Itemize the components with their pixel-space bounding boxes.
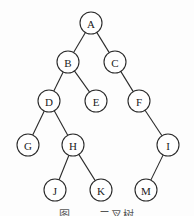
edge-a-c: [97, 32, 109, 52]
node-label: C: [111, 57, 118, 69]
edge-h-j: [59, 155, 69, 180]
tree-node-j: J: [44, 179, 66, 201]
edge-h-k: [79, 154, 95, 180]
tree-node-d: D: [38, 90, 60, 112]
tree-node-m: M: [135, 179, 157, 201]
node-label: E: [93, 96, 100, 108]
tree-node-c: C: [104, 51, 126, 73]
figure-caption: 图 ……二叉树: [0, 206, 194, 216]
edge-i-m: [151, 155, 163, 180]
edge-c-f: [121, 71, 133, 91]
edge-b-d: [54, 72, 63, 91]
node-label: I: [166, 140, 170, 152]
edge-f-i: [145, 110, 162, 136]
node-label: A: [87, 18, 95, 30]
tree-node-g: G: [17, 134, 39, 156]
node-label: D: [45, 96, 53, 108]
tree-node-b: B: [57, 51, 79, 73]
binary-tree-diagram: ABCDEFGHIJKM 图 ……二叉树: [0, 0, 194, 216]
node-label: J: [53, 185, 58, 197]
edge-d-h: [54, 111, 67, 136]
node-label: F: [136, 96, 142, 108]
tree-node-e: E: [85, 90, 107, 112]
edge-a-b: [74, 32, 86, 52]
node-label: M: [141, 185, 151, 197]
node-label: H: [69, 140, 77, 152]
tree-node-k: K: [90, 179, 112, 201]
edge-d-g: [33, 111, 45, 135]
node-label: G: [24, 140, 32, 152]
tree-svg: ABCDEFGHIJKM: [0, 0, 194, 216]
tree-node-f: F: [128, 90, 150, 112]
node-label: K: [97, 185, 105, 197]
tree-node-i: I: [157, 134, 179, 156]
node-label: B: [64, 57, 71, 69]
edge-b-e: [74, 71, 89, 92]
tree-node-a: A: [80, 12, 102, 34]
tree-node-h: H: [62, 134, 84, 156]
